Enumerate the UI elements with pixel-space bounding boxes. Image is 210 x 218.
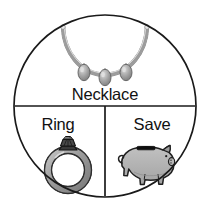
circle-diagram: Necklace Ring Save	[0, 0, 210, 218]
section-label-ring: Ring	[41, 115, 74, 133]
ring-icon	[45, 137, 92, 194]
section-label-necklace: Necklace	[72, 85, 138, 103]
piggy-bank-icon	[119, 145, 175, 184]
necklace-pendant-center	[99, 68, 111, 86]
necklace-icon	[61, 25, 150, 86]
word-diagram-figure: Necklace Ring Save	[0, 0, 210, 218]
coin-slot	[137, 146, 155, 149]
section-label-save: Save	[134, 115, 171, 133]
